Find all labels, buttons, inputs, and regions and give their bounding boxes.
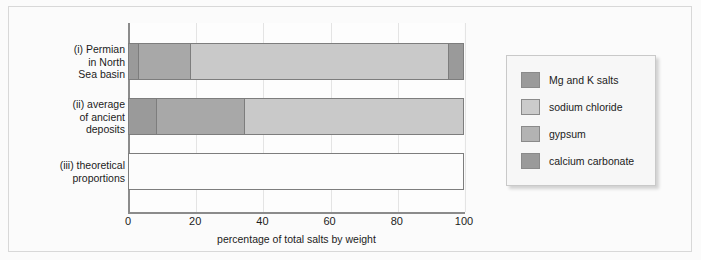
x-tick-label-20: 20 <box>189 215 201 227</box>
chart-figure: (i) Permian in North Sea basin(ii) avera… <box>0 0 701 260</box>
x-tick-label-40: 40 <box>256 215 268 227</box>
legend-label: sodium chloride <box>549 101 623 113</box>
legend-label: calcium carbonate <box>549 155 634 167</box>
legend-label: Mg and K salts <box>549 74 618 86</box>
x-tick-label-60: 60 <box>323 215 335 227</box>
bar-segment-sodium-chloride <box>244 98 464 135</box>
bar-segment-gypsum <box>138 43 191 80</box>
legend-item[interactable]: calcium carbonate <box>521 147 655 174</box>
legend-swatch-icon <box>521 72 540 88</box>
legend-label: gypsum <box>549 128 586 140</box>
legend-item[interactable]: gypsum <box>521 120 655 147</box>
x-tick-label-0: 0 <box>125 215 131 227</box>
legend-item[interactable]: sodium chloride <box>521 93 655 120</box>
category-label: (i) Permian in North Sea basin <box>13 43 125 81</box>
gridline-100 <box>465 23 466 212</box>
bar-segment-gypsum <box>156 98 244 135</box>
bar-row <box>128 153 464 190</box>
bar-segment-calcium-carbonate <box>128 98 157 135</box>
legend: Mg and K saltssodium chloridegypsumcalci… <box>506 55 656 186</box>
legend-swatch-icon <box>521 153 540 169</box>
category-label: (ii) average of ancient deposits <box>13 98 125 136</box>
x-axis-title: percentage of total salts by weight <box>129 233 464 245</box>
bar-segment-Mg-and-K-salts <box>448 43 464 80</box>
legend-swatch-icon <box>521 99 540 115</box>
bar-row <box>128 98 464 135</box>
category-label: (iii) theoretical proportions <box>13 159 125 184</box>
figure-frame: (i) Permian in North Sea basin(ii) avera… <box>8 6 692 252</box>
legend-item[interactable]: Mg and K salts <box>521 66 655 93</box>
category-labels: (i) Permian in North Sea basin(ii) avera… <box>9 7 125 217</box>
bar-row <box>128 43 464 80</box>
x-axis-line <box>128 212 465 214</box>
bar-segment-sodium-chloride <box>190 43 449 80</box>
x-tick-label-80: 80 <box>391 215 403 227</box>
x-tick-label-100: 100 <box>455 215 473 227</box>
legend-swatch-icon <box>521 126 540 142</box>
bar-segment-empty <box>128 153 464 190</box>
